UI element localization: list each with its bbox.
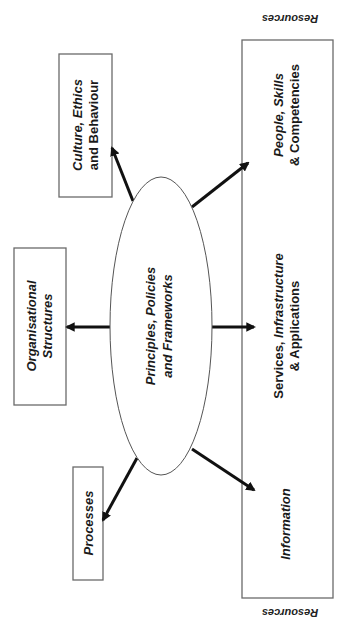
organisational-line2: Structures (40, 293, 55, 358)
svg-text:Resources: Resources (262, 607, 318, 619)
culture-line1b: Ethics (70, 79, 85, 118)
services-line1a: Services, (271, 338, 286, 399)
people-line1: People, Skills (271, 73, 286, 157)
arrow-to-people (192, 163, 248, 207)
information-label: Information (278, 488, 293, 560)
enabler-diagram: Resources Resources Principles, Policies… (0, 0, 350, 625)
svg-text:Resources: Resources (262, 13, 318, 25)
svg-text:Services, Infrastructure: Services, Infrastructure (271, 253, 286, 398)
principles-line1: Principles, Policies (143, 267, 158, 386)
processes-line1: Processes (81, 490, 96, 555)
services-line2: & Applications (287, 281, 302, 372)
arrow-to-culture (112, 148, 133, 201)
people-line2: & Competencies (287, 64, 302, 166)
svg-text:Culture, Ethics: Culture, Ethics (70, 79, 85, 171)
people-label: People, Skills & Competencies (271, 64, 302, 166)
culture-line2: and Behaviour (86, 80, 101, 170)
organisational-line1: Organisational (24, 280, 39, 371)
culture-line1a: Culture, (70, 118, 85, 171)
resources-label-top: Resources (262, 13, 318, 25)
services-line1b: Infrastructure (271, 253, 286, 338)
resources-label-bottom: Resources (262, 607, 318, 619)
processes-label: Processes (81, 490, 96, 555)
principles-line2: and Frameworks (160, 274, 175, 377)
culture-label: Culture, Ethics and Behaviour (70, 79, 101, 171)
arrow-to-processes (103, 458, 137, 520)
organisational-label: Organisational Structures (24, 280, 55, 371)
information-line1: Information (278, 488, 293, 560)
